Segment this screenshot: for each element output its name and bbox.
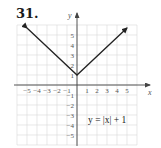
y-tick-label: 4 [71, 42, 75, 50]
x-tick-label: −5 [23, 87, 31, 95]
y-tick-label: −1 [67, 92, 75, 100]
y-tick-label: 5 [71, 32, 75, 40]
x-tick-label: 1 [85, 87, 89, 95]
axes: x y [14, 11, 152, 146]
y-axis-label: y [67, 11, 72, 20]
y-tick-label: 2 [71, 62, 75, 70]
y-tick-label: −5 [67, 132, 75, 140]
x-tick-label: −4 [33, 87, 41, 95]
x-tick-label: 5 [125, 87, 129, 95]
y-tick-label: −3 [67, 112, 75, 120]
coordinate-plane: x y −5−4−3−2−11234554321−1−2−3−4−5 y = |… [0, 0, 161, 148]
x-axis-label: x [147, 88, 152, 97]
x-tick-label: 4 [115, 87, 119, 95]
x-tick-label: −3 [43, 87, 51, 95]
equation-label: y = |x| + 1 [88, 115, 127, 125]
y-tick-label: 3 [71, 52, 75, 60]
x-tick-label: −2 [53, 87, 61, 95]
x-tick-label: 2 [95, 87, 99, 95]
x-tick-label: 3 [105, 87, 109, 95]
y-tick-label: −4 [67, 122, 75, 130]
y-tick-label: −2 [67, 102, 75, 110]
